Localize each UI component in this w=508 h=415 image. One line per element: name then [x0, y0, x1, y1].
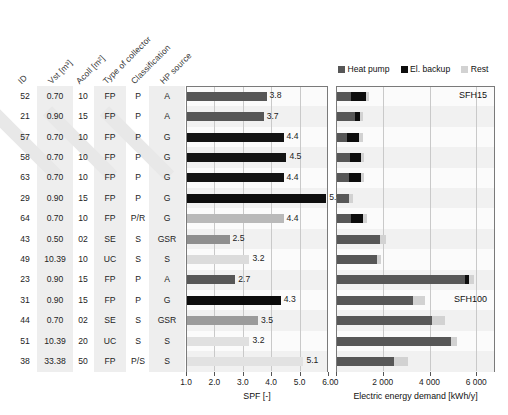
spf-gridline	[271, 87, 272, 371]
energy-bar-segment	[347, 133, 359, 142]
energy-bar-segment	[360, 112, 364, 121]
energy-bar-segment	[361, 153, 364, 162]
table-cell-acoll: 10	[72, 213, 94, 224]
energy-bar-segment	[337, 235, 380, 244]
table-cell-hp: GSR	[152, 234, 182, 245]
energy-bar-segment	[337, 92, 351, 101]
table-cell-vst: 0.70	[40, 132, 70, 143]
spf-bar	[187, 153, 286, 162]
table-cell-vst: 10.39	[40, 336, 70, 347]
spf-tick	[271, 372, 272, 376]
column-header-id: ID	[16, 73, 29, 86]
energy-bar-segment	[377, 255, 382, 264]
table-cell-acoll: 15	[72, 295, 94, 306]
table-cell-hp: G	[152, 295, 182, 306]
energy-bar-segment	[337, 316, 432, 325]
table-cell-vst: 0.70	[40, 213, 70, 224]
legend-swatch-icon	[338, 66, 345, 73]
table-cell-classification: P/R	[125, 213, 151, 224]
table-cell-classification: P	[125, 172, 151, 183]
table-cell-vst: 0.70	[40, 172, 70, 183]
table-cell-id: 21	[14, 111, 36, 122]
spf-bar-value-label: 3.8	[270, 91, 282, 100]
spf-gridline	[214, 87, 215, 371]
energy-bar-segment	[394, 357, 408, 366]
table-cell-acoll: 15	[72, 193, 94, 204]
spf-bar	[187, 275, 235, 284]
energy-bar-segment	[366, 92, 369, 101]
spf-bar	[187, 296, 281, 305]
spf-bar	[187, 194, 326, 203]
legend-label: Heat pump	[348, 64, 390, 74]
energy-bar-segment	[337, 194, 349, 203]
table-cell-acoll: 10	[72, 254, 94, 265]
table-cell-collector: FP	[97, 274, 123, 285]
table-cell-vst: 0.50	[40, 234, 70, 245]
energy-gridline	[476, 87, 477, 371]
energy-row-band	[337, 188, 494, 208]
table-cell-id: 29	[14, 193, 36, 204]
spf-bar-value-label: 5.1	[306, 356, 318, 365]
table-cell-id: 57	[14, 132, 36, 143]
spf-gridline	[300, 87, 301, 371]
table-cell-collector: FP	[97, 193, 123, 204]
table-cell-acoll: 02	[72, 315, 94, 326]
energy-bar-segment	[469, 275, 474, 284]
table-cell-acoll: 50	[72, 356, 94, 367]
table-cell-vst: 0.90	[40, 111, 70, 122]
energy-tick-label: 0	[314, 377, 358, 387]
table-cell-hp: G	[152, 193, 182, 204]
table-cell-hp: G	[152, 213, 182, 224]
spf-bar	[187, 92, 267, 101]
spf-bar-value-label: 3.2	[252, 254, 264, 263]
spf-bar	[187, 316, 258, 325]
table-cell-collector: FP	[97, 295, 123, 306]
spf-bar-value-label: 3.7	[267, 112, 279, 121]
energy-tick-label: 6 000	[454, 377, 498, 387]
energy-bar-segment	[337, 214, 351, 223]
energy-tick-label: 4 000	[408, 377, 452, 387]
plot-annotation: SFH100	[437, 294, 487, 304]
energy-bar-segment	[361, 173, 364, 182]
table-cell-hp: GSR	[152, 315, 182, 326]
spf-tick	[300, 372, 301, 376]
spf-gridline	[243, 87, 244, 371]
energy-bar-segment	[337, 255, 377, 264]
spf-tick	[243, 372, 244, 376]
table-cell-id: 49	[14, 254, 36, 265]
legend-label: Rest	[471, 64, 489, 74]
energy-bar-segment	[351, 214, 363, 223]
energy-bar-segment	[337, 296, 413, 305]
spf-bar	[187, 112, 264, 121]
energy-bar-segment	[351, 92, 365, 101]
energy-gridline	[430, 87, 431, 371]
table-cell-id: 63	[14, 172, 36, 183]
table-cell-vst: 10.39	[40, 254, 70, 265]
legend-item-0: Heat pump	[338, 64, 390, 74]
energy-bar-segment	[337, 357, 394, 366]
energy-gridline	[383, 87, 384, 371]
table-cell-classification: P	[125, 111, 151, 122]
table-cell-hp: S	[152, 356, 182, 367]
spf-bar	[187, 255, 249, 264]
table-cell-classification: P	[125, 152, 151, 163]
table-cell-vst: 0.90	[40, 295, 70, 306]
spf-bar-value-label: 4.3	[284, 295, 296, 304]
energy-tick	[476, 372, 477, 376]
energy-bar-segment	[337, 173, 349, 182]
table-cell-hp: A	[152, 274, 182, 285]
energy-bar-segment	[350, 153, 361, 162]
table-cell-collector: SE	[97, 315, 123, 326]
table-cell-classification: P	[125, 193, 151, 204]
table-cell-classification: P	[125, 274, 151, 285]
table-cell-vst: 0.70	[40, 152, 70, 163]
plot-annotation: SFH15	[437, 90, 487, 100]
table-cell-hp: G	[152, 132, 182, 143]
energy-tick	[383, 372, 384, 376]
table-cell-classification: S	[125, 254, 151, 265]
table-cell-id: 43	[14, 234, 36, 245]
table-cell-acoll: 10	[72, 132, 94, 143]
table-cell-id: 38	[14, 356, 36, 367]
table-cell-id: 44	[14, 315, 36, 326]
column-header-acoll: Acoll [m²]	[74, 53, 107, 86]
